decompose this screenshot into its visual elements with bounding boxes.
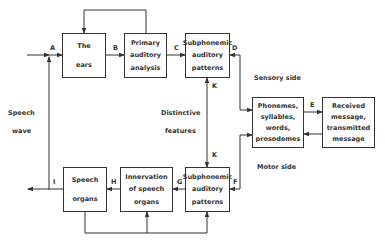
primary-line-1: Primary xyxy=(131,39,160,47)
edge-label-h: H xyxy=(111,178,116,186)
edge-label-c: C xyxy=(174,44,179,52)
box-subphonemic-top: Subphonemic auditory patterns xyxy=(185,33,230,78)
innervation-line-1: Innervation xyxy=(125,173,167,181)
subtop-line-3: patterns xyxy=(192,64,223,72)
annotation-motor-side: Motor side xyxy=(257,163,296,171)
edge-label-e: E xyxy=(310,101,314,109)
annotation-distinctive: Distinctive xyxy=(161,109,200,117)
edge-label-d: D xyxy=(232,44,237,52)
edge-label-i: I xyxy=(53,178,55,186)
subbottom-line-3: patterns xyxy=(192,198,223,206)
annotation-speech: Speech xyxy=(8,109,35,117)
phonemes-line-3: words, xyxy=(266,124,291,132)
primary-line-3: analysis xyxy=(131,64,161,72)
received-line-1: Received xyxy=(332,102,365,110)
subbottom-line-2: auditory xyxy=(192,185,223,193)
box-ears: The ears xyxy=(62,33,106,78)
annotation-features: features xyxy=(165,127,196,135)
speech-organs-line-1: Speech xyxy=(72,176,99,184)
innervation-line-3: organs xyxy=(134,198,159,206)
received-line-4: message xyxy=(332,135,364,143)
phonemes-line-4: prosodemes xyxy=(256,135,301,143)
box-primary-auditory-analysis: Primary auditory analysis xyxy=(124,33,167,78)
subtop-line-2: auditory xyxy=(192,51,223,59)
edge-label-k-bottom: K xyxy=(212,151,217,159)
received-line-3: transmitted xyxy=(327,124,370,132)
edge-label-a: A xyxy=(50,44,55,52)
box-received-message: Received message, transmitted message xyxy=(322,97,375,148)
speech-organs-line-2: organs xyxy=(72,195,97,203)
edge-label-f: F xyxy=(233,178,237,186)
phonemes-line-2: syllables, xyxy=(261,113,296,121)
edge-label-g: G xyxy=(177,178,182,186)
edge-label-b: B xyxy=(113,44,118,52)
ears-line-2: ears xyxy=(76,61,92,69)
annotation-sensory-side: Sensory side xyxy=(254,74,301,82)
innervation-line-2: of speech xyxy=(129,185,164,193)
primary-line-2: auditory xyxy=(130,51,161,59)
box-subphonemic-bottom: Subphonemic auditory patterns xyxy=(185,167,230,212)
subbottom-line-1: Subphonemic xyxy=(183,173,233,181)
box-speech-organs: Speech organs xyxy=(63,167,107,212)
annotation-wave: wave xyxy=(12,127,31,135)
phonemes-line-1: Phonemes, xyxy=(258,102,298,110)
box-innervation: Innervation of speech organs xyxy=(120,167,173,212)
box-phonemes: Phonemes, syllables, words, prosodemes xyxy=(252,97,304,148)
received-line-2: message, xyxy=(331,113,366,121)
subtop-line-1: Subphonemic xyxy=(183,39,233,47)
ears-line-1: The xyxy=(77,42,90,50)
edge-label-k-top: K xyxy=(212,82,217,90)
